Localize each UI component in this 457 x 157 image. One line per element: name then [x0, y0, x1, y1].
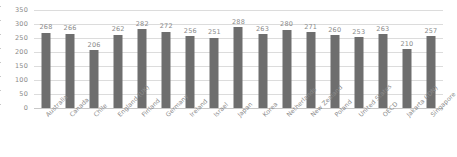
bar-value-label: 282 — [136, 20, 149, 28]
bar-value-label: 271 — [304, 23, 317, 31]
x-axis-label-slot: Germany — [154, 110, 178, 157]
y-axis-tick-mark — [0, 62, 1, 63]
bar[interactable] — [114, 35, 123, 108]
bar-value-label: 210 — [400, 40, 413, 48]
x-axis-label-slot: England (UK) — [106, 110, 130, 157]
bar-slot: 210 — [395, 10, 419, 108]
bar-slot: 280 — [275, 10, 299, 108]
bar[interactable] — [210, 38, 219, 108]
x-axis-label-slot: Korea — [251, 110, 275, 157]
bar[interactable] — [282, 30, 291, 108]
bar-value-label: 262 — [112, 25, 125, 33]
bar-value-label: 288 — [232, 18, 245, 26]
x-axis-labels: AustraliaCanadaChileEngland (UK)FinlandG… — [34, 110, 443, 157]
bar-value-label: 257 — [424, 27, 437, 35]
x-axis-label-slot: Netherlands — [275, 110, 299, 157]
x-axis-label-slot: Finland — [130, 110, 154, 157]
y-axis-tick-350: 350 — [2, 6, 28, 14]
bar-value-label: 272 — [160, 22, 173, 30]
bar-value-label: 256 — [184, 27, 197, 35]
y-axis-tick-250: 250 — [2, 34, 28, 42]
y-axis-tick-mark — [0, 90, 1, 91]
bar-value-label: 260 — [328, 26, 341, 34]
bar-slot: 206 — [82, 10, 106, 108]
bar[interactable] — [90, 50, 99, 108]
y-axis-tick-mark — [0, 76, 1, 77]
bar-slot: 266 — [58, 10, 82, 108]
bar-value-label: 263 — [256, 25, 269, 33]
bar-value-label: 206 — [88, 41, 101, 49]
bar[interactable] — [354, 37, 363, 108]
x-axis-label-slot: Singapore — [419, 110, 443, 157]
y-axis-tick-mark — [0, 34, 1, 35]
y-axis-tick-mark — [0, 48, 1, 49]
x-axis-label-slot: Japan — [226, 110, 250, 157]
y-axis-tick-300: 300 — [2, 20, 28, 28]
x-axis-label-slot: New Zealand — [299, 110, 323, 157]
bar-value-label: 266 — [64, 24, 77, 32]
bar[interactable] — [258, 34, 267, 108]
bar-slot: 268 — [34, 10, 58, 108]
x-axis-label-slot: United States — [347, 110, 371, 157]
y-axis-tick-0: 0 — [2, 104, 28, 112]
y-axis-tick-mark — [0, 104, 1, 105]
x-axis-label-slot: Israel — [202, 110, 226, 157]
bar-slot: 262 — [106, 10, 130, 108]
y-axis-tick-100: 100 — [2, 76, 28, 84]
y-axis-tick-200: 200 — [2, 48, 28, 56]
bar[interactable] — [162, 32, 171, 108]
x-axis-label-slot: Jakarta (IDN) — [395, 110, 419, 157]
bar[interactable] — [402, 49, 411, 108]
bar-value-label: 263 — [376, 25, 389, 33]
bar-slot: 272 — [154, 10, 178, 108]
bar-slot: 288 — [226, 10, 250, 108]
x-axis-label-slot: Canada — [58, 110, 82, 157]
y-axis-tick-mark — [0, 20, 1, 21]
bar[interactable] — [234, 27, 243, 108]
bar-value-label: 280 — [280, 20, 293, 28]
y-axis-tick-50: 50 — [2, 90, 28, 98]
x-axis-label-slot: Poland — [323, 110, 347, 157]
x-axis-label-slot: Ireland — [178, 110, 202, 157]
x-axis-label-slot: Chile — [82, 110, 106, 157]
x-axis-label-slot: OECD — [371, 110, 395, 157]
bar-value-label: 253 — [352, 28, 365, 36]
x-axis-label-slot: Australia — [34, 110, 58, 157]
bar-value-label: 268 — [40, 23, 53, 31]
bar-slot: 263 — [251, 10, 275, 108]
bar-value-label: 251 — [208, 28, 221, 36]
bar[interactable] — [42, 33, 51, 108]
bar-slot: 251 — [202, 10, 226, 108]
y-axis-tick-150: 150 — [2, 62, 28, 70]
y-axis-tick-mark — [0, 6, 1, 7]
bar-slot: 253 — [347, 10, 371, 108]
